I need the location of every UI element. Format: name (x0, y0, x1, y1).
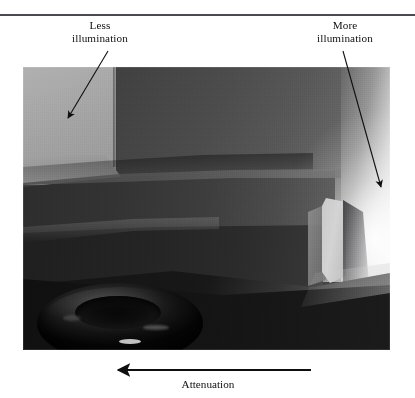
figure-panel: Less illumination More illumination Atte… (0, 0, 415, 398)
label-more-line1: More (289, 19, 401, 32)
label-attenuation: Attenuation (108, 378, 308, 391)
label-less-line1: Less (44, 19, 156, 32)
scene-border (23, 67, 390, 350)
label-less-line2: illumination (44, 32, 156, 45)
top-rule-divider (0, 14, 415, 16)
rendered-scene-image (23, 67, 390, 350)
label-more-line2: illumination (289, 32, 401, 45)
label-less-illumination: Less illumination (44, 19, 156, 45)
label-more-illumination: More illumination (289, 19, 401, 45)
